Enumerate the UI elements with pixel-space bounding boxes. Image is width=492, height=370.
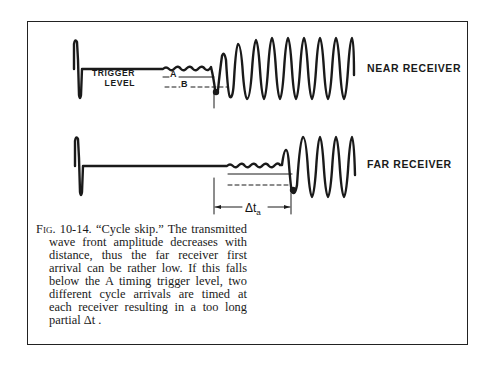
delta-t-label: Δta — [244, 201, 262, 217]
figure-number: Fig. 10-14. — [36, 222, 92, 236]
near-receiver-label: NEAR RECEIVER — [367, 62, 461, 74]
trigger-level-label: TRIGGER LEVEL — [89, 69, 135, 88]
level-b-marker: B — [181, 79, 188, 89]
delta-t-symbol: Δt — [245, 201, 256, 215]
caption-body: The transmitted wave front amplitude dec… — [49, 222, 247, 327]
level-label-line2: LEVEL — [89, 79, 135, 89]
level-a-marker: A — [170, 69, 177, 79]
figure-caption: Fig. 10-14. “Cycle skip.” The transmitte… — [36, 223, 247, 327]
delta-t-subscript: a — [256, 208, 260, 217]
far-trigger-point — [290, 187, 296, 193]
far-receiver-waveform — [75, 137, 355, 197]
figure-title: “Cycle skip.” — [96, 222, 164, 236]
far-receiver-label: FAR RECEIVER — [367, 158, 452, 170]
